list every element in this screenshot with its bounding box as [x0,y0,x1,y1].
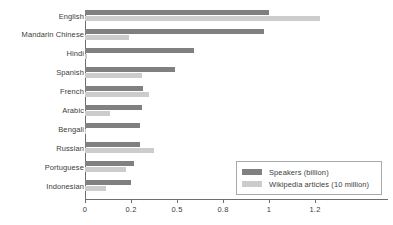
y-axis-category-label: Bengali [58,124,84,133]
bar-speakers [85,142,140,147]
bar-speakers [85,29,264,34]
y-axis-category-label: Hindi [66,49,84,58]
legend-label: Speakers (billion) [269,168,329,177]
bar-speakers [85,86,143,91]
y-axis-category-label: Spanish [56,68,84,77]
bar-wikipedia-articles [85,16,320,21]
bar-wikipedia-articles [85,35,129,40]
x-axis-tick-mark [315,199,316,203]
y-axis-category-label: Arabic [62,106,84,115]
x-axis-tick-label: 0 [83,205,87,214]
bar-wikipedia-articles [85,167,126,172]
x-axis-tick-mark [223,199,224,203]
bar-wikipedia-articles [85,129,86,134]
bar-speakers [85,48,194,53]
y-axis-category-label: Portuguese [45,162,84,171]
x-axis-tick-label: 0.5 [171,205,182,214]
bar-speakers [85,161,134,166]
legend-swatch-icon [242,181,262,187]
bar-wikipedia-articles [85,92,149,97]
bar-wikipedia-articles [85,186,106,191]
bar-speakers [85,180,131,185]
y-axis-category-label: Mandarin Chinese [22,30,84,39]
x-axis-tick-label: 1.2 [309,205,320,214]
bar-chart: 00.20.50.811.2 EnglishMandarin ChineseHi… [0,0,393,225]
legend-swatch-icon [242,169,262,175]
x-axis-tick-label: 0.8 [217,205,228,214]
y-axis-category-label: Russian [56,143,84,152]
x-axis-tick-mark [131,199,132,203]
bar-wikipedia-articles [85,148,154,153]
y-axis-category-label: Indonesian [46,181,84,190]
x-axis-tick-mark [269,199,270,203]
bar-speakers [85,105,142,110]
chart-legend: Speakers (billion)Wikipedia articles (10… [236,161,382,195]
bar-wikipedia-articles [85,54,87,59]
x-axis-tick-label: 1 [267,205,271,214]
legend-item: Wikipedia articles (10 million) [242,178,376,190]
y-axis-category-label: English [59,11,84,20]
legend-label: Wikipedia articles (10 million) [269,180,369,189]
bar-speakers [85,123,140,128]
x-axis-tick-mark [85,199,86,203]
bar-wikipedia-articles [85,111,110,116]
y-axis-category-label: French [60,87,84,96]
legend-item: Speakers (billion) [242,166,376,178]
x-axis-tick-label: 0.2 [125,205,136,214]
bar-wikipedia-articles [85,73,142,78]
bar-speakers [85,67,175,72]
x-axis-tick-mark [177,199,178,203]
bar-speakers [85,10,269,15]
